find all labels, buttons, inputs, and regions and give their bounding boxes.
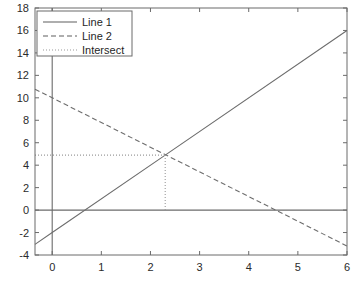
y-tick-label: 14 — [17, 47, 29, 59]
x-tick-label: 0 — [49, 261, 55, 273]
x-tick-label: 2 — [147, 261, 153, 273]
legend-label-intersect: Intersect — [82, 44, 124, 56]
y-tick-label: 10 — [17, 92, 29, 104]
x-tick-label: 4 — [246, 261, 252, 273]
y-tick-label: 8 — [23, 114, 29, 126]
x-tick-label: 5 — [295, 261, 301, 273]
x-tick-label: 3 — [197, 261, 203, 273]
x-tick-label: 6 — [344, 261, 350, 273]
y-tick-label: 6 — [23, 137, 29, 149]
chart-figure: -4-2024681012141618 0123456 Line 1Line 2… — [0, 0, 356, 285]
x-tick-label: 1 — [98, 261, 104, 273]
legend-label-line-1: Line 1 — [82, 16, 112, 28]
line-chart: -4-2024681012141618 0123456 Line 1Line 2… — [0, 0, 356, 285]
y-tick-label: 0 — [23, 204, 29, 216]
y-tick-label: 12 — [17, 69, 29, 81]
legend-label-line-2: Line 2 — [82, 30, 112, 42]
chart-legend: Line 1Line 2Intersect — [37, 11, 132, 56]
y-tick-label: 18 — [17, 2, 29, 14]
y-tick-label: 4 — [23, 159, 29, 171]
y-tick-label: 16 — [17, 24, 29, 36]
y-tick-label: 2 — [23, 182, 29, 194]
y-tick-label: -4 — [19, 249, 29, 261]
y-tick-label: -2 — [19, 227, 29, 239]
